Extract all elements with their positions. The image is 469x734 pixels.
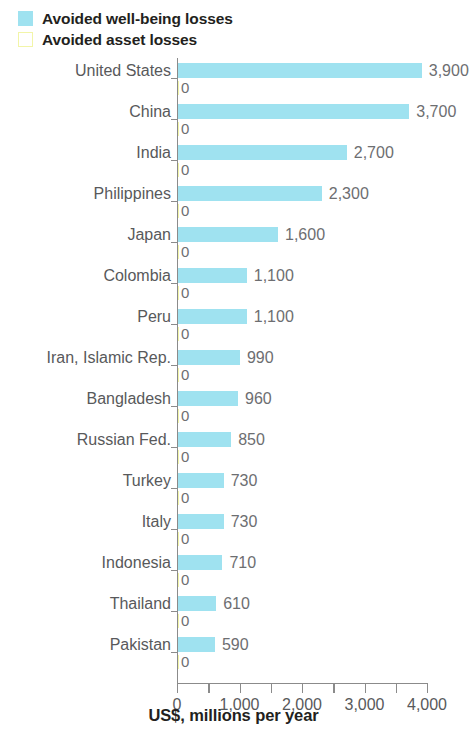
bar-segment [178,268,247,283]
bar-wellbeing: 3,700 [178,104,409,119]
x-axis-title: US$, millions per year [0,706,467,725]
bar-row: Turkey7300 [0,472,467,513]
bar-segment [178,573,179,587]
bar-segment [178,286,179,300]
bar-assets: 0 [178,245,179,259]
bar-value-label: 2,300 [329,185,369,203]
bar-segment [178,204,179,218]
legend-swatch-icon [18,11,33,26]
bar-segment [178,227,278,242]
bar-row: Philippines2,3000 [0,185,467,226]
bar-row: China3,7000 [0,103,467,144]
y-axis-tick [171,119,178,120]
bar-wellbeing: 2,700 [178,145,347,160]
bar-segment [178,614,179,628]
category-label: United States [0,62,171,80]
legend-item-label: Avoided asset losses [42,31,197,49]
bar-wellbeing: 3,900 [178,63,422,78]
bar-wellbeing: 730 [178,514,224,529]
bar-wellbeing: 1,100 [178,268,247,283]
bar-row: Peru1,1000 [0,308,467,349]
bar-value-label: 850 [238,431,265,449]
y-axis-tick [171,283,178,284]
bar-row: Indonesia7100 [0,554,467,595]
bar-value-label: 0 [181,244,189,260]
category-label: Iran, Islamic Rep. [0,349,171,367]
bar-segment [178,432,231,447]
bar-assets: 0 [178,204,179,218]
x-axis-tick-minor [396,684,397,693]
bar-segment [178,122,179,136]
bar-value-label: 0 [181,367,189,383]
category-label: Italy [0,513,171,531]
bar-segment [178,350,240,365]
y-axis-tick [171,365,178,366]
bar-value-label: 0 [181,572,189,588]
bar-row: Pakistan5900 [0,636,467,677]
category-label: Indonesia [0,554,171,572]
bar-segment [178,81,179,95]
x-axis-tick-minor [333,684,334,693]
bar-value-label: 0 [181,285,189,301]
bar-value-label: 3,700 [416,103,456,121]
legend-item-assets: Avoided asset losses [18,29,448,50]
category-label: Pakistan [0,636,171,654]
chart-legend: Avoided well-being losses Avoided asset … [18,8,448,50]
legend-item-wellbeing: Avoided well-being losses [18,8,448,29]
bar-value-label: 960 [245,390,272,408]
bar-assets: 0 [178,409,179,423]
bar-assets: 0 [178,450,179,464]
bar-assets: 0 [178,573,179,587]
bar-assets: 0 [178,327,179,341]
bar-chart-plot: United States3,9000China3,7000India2,700… [0,58,467,688]
bar-wellbeing: 1,600 [178,227,278,242]
bar-row: Bangladesh9600 [0,390,467,431]
bar-value-label: 0 [181,408,189,424]
bar-value-label: 0 [181,531,189,547]
category-label: Bangladesh [0,390,171,408]
bar-segment [178,555,222,570]
bar-value-label: 0 [181,613,189,629]
bar-row: Italy7300 [0,513,467,554]
y-axis-tick [171,324,178,325]
x-axis-tick-major [240,684,241,693]
bar-value-label: 0 [181,490,189,506]
x-axis-tick-major [427,684,428,693]
y-axis-tick [171,488,178,489]
bar-assets: 0 [178,368,179,382]
bar-row: Thailand6100 [0,595,467,636]
bar-value-label: 0 [181,449,189,465]
category-label: Turkey [0,472,171,490]
category-label: Colombia [0,267,171,285]
bar-value-label: 3,900 [429,62,469,80]
bar-segment [178,450,179,464]
bar-segment [178,596,216,611]
bar-segment [178,63,422,78]
bar-segment [178,655,179,669]
legend-item-label: Avoided well-being losses [42,10,233,28]
bar-segment [178,473,224,488]
bar-wellbeing: 730 [178,473,224,488]
y-axis-tick [171,652,178,653]
bar-segment [178,637,215,652]
bar-value-label: 2,700 [354,144,394,162]
bar-row: Japan1,6000 [0,226,467,267]
bar-segment [178,409,179,423]
bar-segment [178,186,322,201]
category-label: India [0,144,171,162]
bar-segment [178,145,347,160]
bar-value-label: 0 [181,121,189,137]
bar-wellbeing: 710 [178,555,222,570]
bar-assets: 0 [178,122,179,136]
y-axis-tick [171,201,178,202]
bar-segment [178,491,179,505]
category-label: Philippines [0,185,171,203]
y-axis-tick [171,447,178,448]
bar-segment [178,368,179,382]
bar-segment [178,391,238,406]
bar-segment [178,104,409,119]
y-axis-tick [171,529,178,530]
category-label: Peru [0,308,171,326]
bar-wellbeing: 590 [178,637,215,652]
x-axis-tick-major [302,684,303,693]
